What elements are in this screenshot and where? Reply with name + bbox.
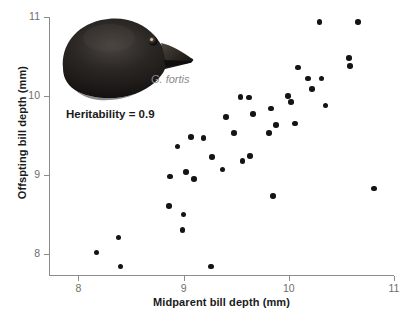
data-point [94,250,100,256]
data-point [166,203,172,209]
data-point [285,93,291,99]
data-point [191,176,197,182]
data-point [231,130,237,136]
heritability-annotation: Heritability = 0.9 [66,108,155,120]
data-point [355,19,361,25]
data-point [247,153,253,159]
data-point [295,65,301,71]
data-point [167,174,173,180]
data-point [181,212,187,218]
x-tick-label: 8 [65,282,91,294]
scatter-plot-figure: 891011 891011 [0,0,403,316]
data-point [288,99,294,105]
data-point [180,227,186,233]
data-point [273,122,279,128]
data-point [317,19,323,25]
y-axis-title: Offspting bill depth (mm) [16,3,28,262]
data-point [270,193,276,199]
data-point [183,169,189,175]
data-point [268,106,274,112]
data-point [346,55,352,61]
data-point [238,94,244,100]
data-point [266,130,272,136]
data-point [209,154,215,160]
x-tick-label: 11 [381,282,403,294]
x-tick-label: 9 [171,282,197,294]
data-point [175,144,181,150]
data-point [188,134,194,140]
species-label: G. fortis [151,73,190,85]
data-point [323,103,329,109]
data-point [223,114,229,120]
data-point [292,121,298,127]
data-point [220,167,226,173]
data-point [371,186,377,192]
data-point [208,264,214,270]
data-point [347,63,353,69]
x-tick-label: 10 [276,282,302,294]
data-point [309,86,315,92]
data-point [201,135,207,141]
x-axis-title: Midparent bill depth (mm) [49,296,394,308]
x-tick-mark [394,276,395,281]
data-point [118,264,124,270]
data-point [116,235,122,241]
data-point [319,76,325,82]
x-tick-mark [78,276,79,281]
data-point [305,76,311,82]
data-point [250,111,256,117]
finch-head-photo [57,12,203,104]
x-tick-mark [289,276,290,281]
data-point [240,158,246,164]
x-tick-mark [184,276,185,281]
data-point [246,95,252,101]
